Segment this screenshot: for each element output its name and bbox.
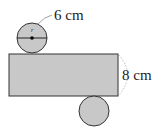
height-label: 8 cm — [122, 68, 152, 83]
diameter-leader-line — [38, 15, 52, 24]
diameter-label: 6 cm — [54, 8, 84, 23]
cylinder-net-diagram: r 6 cm 8 cm — [0, 0, 162, 136]
radius-symbol: r — [31, 27, 33, 33]
center-dot — [30, 36, 34, 40]
lateral-rectangle — [9, 54, 118, 96]
bottom-circle — [79, 96, 109, 126]
